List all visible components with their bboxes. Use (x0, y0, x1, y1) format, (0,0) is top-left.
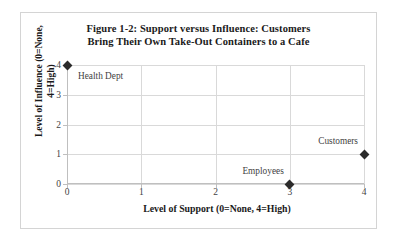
y-tick-label: 4 (56, 60, 61, 70)
y-axis-title-line-1: Level of Influence (0=None, (33, 5, 45, 157)
y-tick-mark (63, 154, 67, 155)
y-tick-mark (63, 95, 67, 96)
data-point-label: Employees (242, 166, 283, 176)
gridline-vertical (141, 65, 142, 184)
chart-title-line-1: Figure 1-2: Support versus Influence: Cu… (21, 22, 376, 35)
x-tick-label: 0 (65, 187, 70, 197)
y-tick-mark (63, 125, 67, 126)
y-axis-title: Level of Influence (0=None, 4=High) (33, 5, 59, 157)
figure-frame: Figure 1-2: Support versus Influence: Cu… (20, 12, 377, 229)
x-tick-label: 1 (139, 187, 144, 197)
data-point-marker[interactable] (359, 149, 369, 159)
chart-title-line-2: Bring Their Own Take-Out Containers to a… (21, 35, 376, 48)
y-tick-label: 2 (56, 120, 61, 130)
gridline-vertical (290, 65, 291, 184)
x-tick-label: 4 (362, 187, 367, 197)
y-axis-line (67, 65, 68, 184)
y-axis-title-line-2: 4=High) (45, 5, 57, 157)
data-point-marker[interactable] (285, 179, 295, 189)
plot-area: 43210 01234 Health DeptEmployeesCustomer… (67, 65, 364, 184)
x-tick-label: 2 (213, 187, 218, 197)
gridline-vertical (216, 65, 217, 184)
y-tick-label: 3 (56, 90, 61, 100)
data-point-label: Health Dept (78, 71, 123, 81)
chart-title: Figure 1-2: Support versus Influence: Cu… (21, 22, 376, 48)
data-point-label: Customers (318, 136, 358, 146)
data-point-marker[interactable] (62, 60, 72, 70)
gridline-vertical (364, 65, 365, 184)
y-tick-label: 0 (56, 179, 61, 189)
y-tick-label: 1 (56, 149, 61, 159)
x-axis-title: Level of Support (0=None, 4=High) (67, 203, 367, 214)
